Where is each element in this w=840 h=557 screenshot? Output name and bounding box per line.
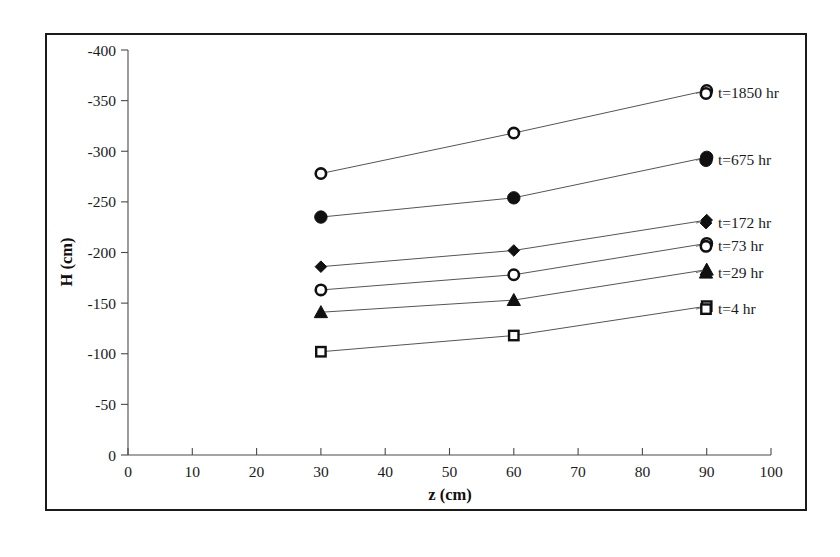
data-point-1-1 xyxy=(508,192,520,204)
x-tick-label-10: 10 xyxy=(185,463,201,480)
data-point-1-0 xyxy=(315,211,327,223)
legend-marker-5 xyxy=(701,304,710,313)
x-axis-title: z (cm) xyxy=(428,485,472,504)
legend-label-0: t=1850 hr xyxy=(718,84,780,101)
y-axis-title: H (cm) xyxy=(57,237,76,286)
y-tick-label--50: -50 xyxy=(95,396,116,413)
y-tick-label--350: -350 xyxy=(88,92,117,109)
data-point-0-0 xyxy=(316,168,326,178)
x-tick-label-30: 30 xyxy=(313,463,329,480)
x-tick-label-60: 60 xyxy=(506,463,522,480)
legend-marker-1 xyxy=(700,154,712,166)
series-line-5 xyxy=(321,306,707,352)
x-tick-label-80: 80 xyxy=(635,463,651,480)
legend-label-1: t=675 hr xyxy=(718,151,772,168)
data-point-3-1 xyxy=(509,270,519,280)
y-tick-label--100: -100 xyxy=(88,345,117,362)
x-tick-label-100: 100 xyxy=(759,463,783,480)
y-tick-label--200: -200 xyxy=(88,244,117,261)
legend-marker-0 xyxy=(701,88,711,98)
x-tick-label-90: 90 xyxy=(699,463,715,480)
figure-container: 0102030405060708090100-400-350-300-250-2… xyxy=(0,0,840,557)
data-point-3-0 xyxy=(316,285,326,295)
y-tick-label-0: 0 xyxy=(108,447,116,464)
series-line-2 xyxy=(321,220,707,267)
labels-group: t=1850 hrt=675 hrt=172 hrt=73 hrt=29 hrt… xyxy=(696,84,780,317)
x-tick-label-50: 50 xyxy=(442,463,458,480)
chart-canvas: 0102030405060708090100-400-350-300-250-2… xyxy=(0,0,840,557)
y-tick-label--400: -400 xyxy=(88,42,117,59)
data-point-5-1 xyxy=(509,331,518,340)
data-point-5-0 xyxy=(316,347,325,356)
legend-label-4: t=29 hr xyxy=(718,264,764,281)
y-tick-label--300: -300 xyxy=(88,143,117,160)
legend-label-5: t=4 hr xyxy=(718,300,756,317)
data-point-2-0 xyxy=(315,261,327,273)
axes-group: 0102030405060708090100-400-350-300-250-2… xyxy=(88,42,783,481)
x-tick-label-20: 20 xyxy=(249,463,265,480)
x-tick-label-0: 0 xyxy=(124,463,132,480)
legend-label-3: t=73 hr xyxy=(718,237,764,254)
x-tick-label-70: 70 xyxy=(570,463,586,480)
x-tick-label-40: 40 xyxy=(377,463,393,480)
y-tick-label--150: -150 xyxy=(88,295,117,312)
data-point-2-1 xyxy=(508,245,520,257)
data-point-0-1 xyxy=(509,128,519,138)
legend-label-2: t=172 hr xyxy=(718,214,772,231)
series-line-1 xyxy=(321,157,707,217)
y-tick-label--250: -250 xyxy=(88,193,117,210)
series-group xyxy=(314,85,713,356)
legend-marker-3 xyxy=(701,241,711,251)
